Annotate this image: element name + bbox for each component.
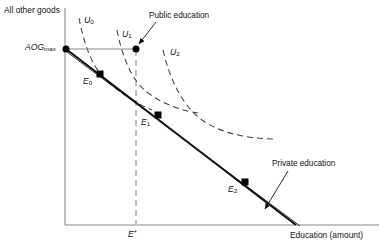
curve-label-u1: U1 xyxy=(122,30,132,40)
indifference-curves-group xyxy=(79,18,276,139)
aog-max-label: AOGmax xyxy=(25,43,56,53)
aog-max-label-prefix: AOG xyxy=(25,42,44,52)
point-label-e1: E1 xyxy=(141,118,150,128)
curve-label-u1-subscript: 1 xyxy=(128,32,131,39)
point-marker-e1 xyxy=(155,112,162,119)
point-label-e0: E0 xyxy=(83,77,92,87)
curve-label-u0-subscript: 0 xyxy=(90,18,93,25)
point-marker-e0 xyxy=(97,71,104,78)
point-label-e0-subscript: 0 xyxy=(89,79,92,86)
figure-container: All other goods Education (amount) AOGma… xyxy=(0,0,379,247)
curve-label-u2: U2 xyxy=(170,48,180,58)
curve-label-u2-subscript: 2 xyxy=(176,50,179,57)
e-star-label-superscript: * xyxy=(134,229,137,236)
point-label-e2-subscript: 2 xyxy=(234,187,237,194)
y-axis-label: All other goods xyxy=(4,6,60,14)
point-label-e2: E2 xyxy=(228,185,237,195)
diagram-svg xyxy=(0,0,379,247)
point-marker-e2 xyxy=(242,179,249,186)
curve-label-u0: U0 xyxy=(84,16,94,26)
x-axis-label: Education (amount) xyxy=(290,231,363,239)
indifference-curve-u0 xyxy=(79,18,152,110)
point-marker-public-education xyxy=(133,46,140,53)
indifference-curve-u2 xyxy=(163,50,276,139)
e-star-label: E* xyxy=(128,229,136,239)
public-education-callout-arrow xyxy=(139,22,156,44)
point-label-e1-subscript: 1 xyxy=(147,120,150,127)
aog-max-label-subscript: max xyxy=(44,45,56,52)
axes-group xyxy=(65,8,379,225)
point-marker-aog-max xyxy=(63,46,70,53)
public-education-callout-label: Public education xyxy=(149,12,209,20)
indifference-curve-u1 xyxy=(117,30,198,113)
private-education-callout-arrow xyxy=(265,171,288,209)
private-education-callout-label: Private education xyxy=(272,160,335,168)
